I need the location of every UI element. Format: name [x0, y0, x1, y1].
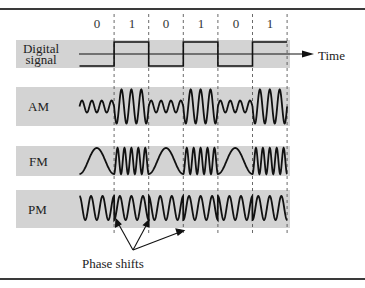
- pm-wave: [80, 196, 288, 220]
- time-arrow-head: [302, 51, 314, 58]
- phase-shift-arrows: [116, 219, 185, 250]
- modulation-diagram: [0, 0, 365, 288]
